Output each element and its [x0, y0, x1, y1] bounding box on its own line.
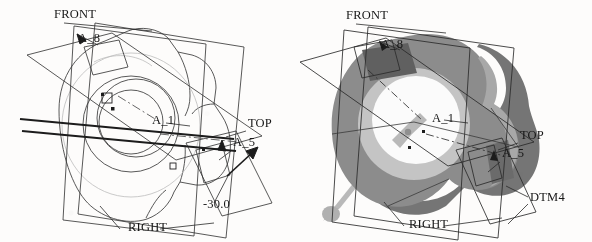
a1-axis-label: A_1: [432, 111, 454, 125]
dtm4-datum-label: DTM4: [530, 190, 565, 204]
a5-datum-label: A_5: [502, 146, 524, 160]
shaded-view-panel: FRONT A_8 A_1 TOP A_5 DTM4 RIGHT: [296, 0, 592, 242]
front-datum-label: FRONT: [54, 7, 96, 21]
a8-datum-label: A_8: [381, 37, 403, 51]
a8-datum-label: A_8: [78, 31, 100, 45]
front-datum-label: FRONT: [346, 8, 388, 22]
top-datum-plane: [27, 33, 262, 160]
top-datum-label: TOP: [520, 128, 544, 142]
angle-dimension: -30.0: [203, 197, 230, 211]
cad-figure: FRONT A_8 A_1 TOP A_5 -30.0 RIGHT: [0, 0, 592, 242]
top-datum-label: TOP: [248, 116, 272, 130]
a5-datum-label: A_5: [233, 135, 255, 149]
right-datum-label: RIGHT: [409, 217, 448, 231]
wireframe-view-panel: FRONT A_8 A_1 TOP A_5 -30.0 RIGHT: [0, 0, 296, 242]
a1-axis-line: [20, 119, 236, 151]
a1-axis-label: A_1: [152, 113, 174, 127]
right-datum-label: RIGHT: [128, 220, 167, 234]
